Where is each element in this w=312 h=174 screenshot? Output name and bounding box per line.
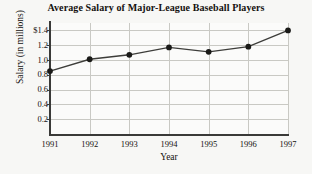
y-tick-label: $1.4 — [4, 25, 48, 35]
y-tick-label: 0.6 — [4, 84, 48, 94]
x-axis-label: Year — [50, 152, 288, 162]
y-tick-mark — [47, 75, 51, 76]
y-tick-mark — [47, 45, 51, 46]
gridline-vertical — [209, 23, 210, 134]
gridline-vertical — [129, 23, 130, 134]
y-tick-label: 1.2 — [4, 40, 48, 50]
y-tick-mark — [47, 30, 51, 31]
y-tick-mark — [47, 90, 51, 91]
y-tick-mark — [47, 104, 51, 105]
gridline-vertical — [90, 23, 91, 134]
y-tick-label: 0.8 — [4, 69, 48, 79]
gridline-vertical — [248, 23, 249, 134]
x-tick-label: 1993 — [109, 139, 149, 149]
y-tick-label: 0.4 — [4, 99, 48, 109]
gridline-vertical — [169, 23, 170, 134]
x-tick-label: 1992 — [70, 139, 110, 149]
x-tick-label: 1997 — [268, 139, 308, 149]
x-axis-line — [49, 134, 289, 136]
y-tick-mark — [47, 119, 51, 120]
plot-area — [50, 23, 288, 134]
x-tick-label: 1991 — [30, 139, 70, 149]
y-tick-label: 0.2 — [4, 114, 48, 124]
gridline-vertical — [288, 23, 289, 134]
x-tick-label: 1996 — [228, 139, 268, 149]
x-tick-label: 1995 — [189, 139, 229, 149]
chart-title: Average Salary of Major-League Baseball … — [0, 2, 312, 13]
y-tick-label: 1.0 — [4, 55, 48, 65]
x-tick-label: 1994 — [149, 139, 189, 149]
y-tick-mark — [47, 60, 51, 61]
chart-screenshot: Average Salary of Major-League Baseball … — [0, 0, 312, 174]
